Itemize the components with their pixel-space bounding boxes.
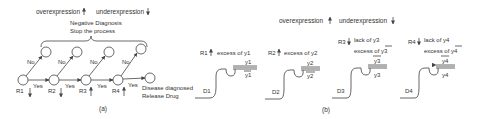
curly-brace bbox=[41, 36, 147, 47]
no-node-4 bbox=[136, 44, 146, 54]
no-node-3 bbox=[104, 47, 114, 57]
gate-d2: R2 excess of y2 y2 y2 D2 bbox=[265, 49, 320, 99]
legend-b-overexpression-label: overexpression bbox=[279, 17, 323, 25]
legend-underexpression-label: underexpression bbox=[96, 8, 144, 16]
gate-d2-bottom-strand: y2 bbox=[307, 73, 314, 79]
gate-d2-toehold bbox=[294, 70, 303, 77]
legend-b-underexpression-label: underexpression bbox=[339, 17, 387, 25]
gate-d3-bottom-strand: y3 bbox=[374, 72, 381, 78]
gate-d1-line1: excess of y1 bbox=[217, 50, 251, 56]
edge-yes-label-4: Yes bbox=[128, 82, 138, 88]
negative-diagnosis-label: Negative Diagnosis bbox=[70, 20, 122, 26]
gate-d2-top-strand: y2 bbox=[307, 60, 314, 66]
node-r4-label: R4 bbox=[112, 88, 120, 94]
rule-r4-label: R4 bbox=[408, 39, 416, 45]
gate-d3-label: D3 bbox=[337, 88, 345, 94]
gate-d1-top-strand: y1 bbox=[245, 59, 252, 65]
rule-r1-label: R1 bbox=[200, 50, 208, 56]
edge-no-label-1: No bbox=[27, 59, 35, 65]
gate-d3-toehold bbox=[361, 68, 370, 75]
node-r2-label: R2 bbox=[48, 88, 56, 94]
edge-yes-label-1: Yes bbox=[33, 83, 43, 89]
gate-d4-toehold bbox=[429, 68, 438, 75]
node-r3 bbox=[81, 75, 91, 85]
gate-d1-label: D1 bbox=[203, 88, 211, 94]
disease-diagnosed-label: Disease diagnosed bbox=[142, 85, 193, 91]
figure-b: overexpression underexpression R1 excess… bbox=[195, 17, 462, 114]
diagram-canvas: overexpression underexpression Negative … bbox=[0, 0, 480, 119]
gate-d1-bottom-strand: y1 bbox=[245, 72, 252, 78]
edge-no-label-3: No bbox=[90, 59, 98, 65]
gate-d3: R3 lack of y3 excess of y3 y3 y3 D3 bbox=[332, 37, 392, 98]
edge-yes-4 bbox=[123, 78, 145, 79]
gate-d1: R1 excess of y1 y1 y1 D1 bbox=[195, 49, 257, 98]
edge-no-label-4: No bbox=[122, 59, 130, 65]
gate-d4-bottom-strand: y4 bbox=[442, 72, 449, 78]
node-r4 bbox=[113, 75, 123, 85]
gate-d4-label: D4 bbox=[405, 88, 413, 94]
gate-d1-toehold bbox=[226, 69, 235, 76]
gate-d4-line1: lack of y4 bbox=[424, 37, 450, 43]
rule-r3-label: R3 bbox=[338, 39, 346, 45]
gate-d2-line1: excess of y2 bbox=[284, 50, 318, 56]
gate-d2-label: D2 bbox=[272, 89, 280, 95]
gate-d3-line2: excess of y3 bbox=[354, 48, 388, 54]
edge-yes-label-2: Yes bbox=[65, 83, 75, 89]
edge-no-label-2: No bbox=[58, 59, 66, 65]
gate-d4: R4 lack of y4 excess of y4 y4 y4 D4 bbox=[400, 37, 462, 98]
node-r2 bbox=[49, 75, 59, 85]
node-final bbox=[145, 73, 155, 83]
no-node-2 bbox=[72, 47, 82, 57]
gate-d4-top-strand: y4 bbox=[442, 58, 449, 64]
gate-d3-line1: lack of y3 bbox=[354, 37, 380, 43]
legend-overexpression-label: overexpression bbox=[36, 8, 80, 16]
node-r1 bbox=[18, 75, 28, 85]
caption-a: (a) bbox=[99, 105, 107, 113]
stop-process-label: Stop the process bbox=[70, 28, 115, 34]
node-r3-label: R3 bbox=[79, 88, 87, 94]
edge-yes-label-3: Yes bbox=[97, 83, 107, 89]
caption-b: (b) bbox=[322, 106, 330, 114]
gate-d4-line2: excess of y4 bbox=[424, 48, 458, 54]
node-r1-label: R1 bbox=[16, 88, 24, 94]
release-drug-label: Release Drug bbox=[142, 93, 179, 99]
gate-d3-top-strand: y3 bbox=[374, 58, 381, 64]
rule-r2-label: R2 bbox=[268, 50, 276, 56]
figure-a: overexpression underexpression Negative … bbox=[16, 8, 193, 113]
no-node-1 bbox=[41, 47, 51, 57]
